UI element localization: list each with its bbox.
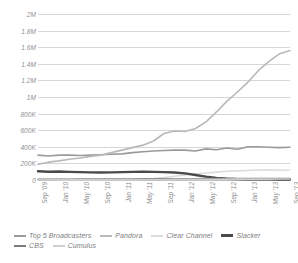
y-axis-tick-label: 1M [2, 94, 36, 101]
series-line [38, 179, 290, 180]
x-axis-tick-label: May '10 [83, 182, 90, 205]
y-axis-tick-label: 1.4M [2, 60, 36, 67]
y-axis-tick-label: 1.8M [2, 27, 36, 34]
x-axis-labels: Sep '09Jan '10May '10Sep '10Jan '11May '… [38, 182, 290, 222]
legend-label: CBS [29, 242, 44, 249]
y-axis-tick-label: 1.6M [2, 44, 36, 51]
legend-item[interactable]: Clear Channel [151, 232, 212, 239]
legend-label: Pandora [115, 232, 142, 239]
y-axis-tick-label: 400K [2, 143, 36, 150]
legend-item[interactable]: Cumulus [53, 242, 96, 249]
x-axis-tick-label: Sep '11 [167, 182, 174, 203]
plot-area [38, 14, 290, 180]
y-axis-tick-label: 600K [2, 127, 36, 134]
series-lines [38, 14, 290, 180]
x-axis-tick-label: Jan '12 [188, 182, 195, 203]
legend-label: Slacker [236, 232, 260, 239]
legend-swatch [14, 235, 26, 237]
legend-label: Clear Channel [166, 232, 212, 239]
x-axis-tick-label: Jan '13 [251, 182, 258, 203]
x-axis-tick-label: May '12 [209, 182, 216, 205]
legend-item[interactable]: Slacker [221, 232, 260, 239]
x-axis-tick-label: May '13 [272, 182, 279, 205]
legend-swatch [221, 234, 233, 237]
y-axis-tick-label: 1.2M [2, 77, 36, 84]
x-axis-tick-label: Sep '13 [293, 182, 298, 204]
legend-swatch [53, 245, 65, 247]
y-axis-tick-label: 2M [2, 11, 36, 18]
legend-item[interactable]: CBS [14, 242, 44, 249]
y-axis-tick-label: 0 [2, 177, 36, 184]
x-axis-tick-label: Sep '10 [104, 182, 111, 204]
y-axis-tick-label: 800K [2, 110, 36, 117]
x-axis-tick-label: Jan '11 [125, 182, 132, 202]
legend-item[interactable]: Pandora [100, 232, 142, 239]
x-axis-tick-label: May '11 [146, 182, 153, 204]
legend-label: Cumulus [68, 242, 96, 249]
legend-item[interactable]: Top 5 Broadcasters [14, 232, 91, 239]
y-axis-labels: 2M1.8M1.6M1.4M1.2M1M800K600K400K200K0 [0, 14, 36, 180]
x-axis-tick-label: Sep '09 [41, 182, 48, 204]
chart-legend: Top 5 BroadcastersPandoraClear ChannelSl… [14, 232, 292, 252]
legend-row-1: Top 5 BroadcastersPandoraClear ChannelSl… [14, 232, 292, 239]
x-axis-tick-label: Sep '12 [230, 182, 237, 204]
legend-swatch [100, 235, 112, 237]
x-axis-tick-label: Jan '10 [62, 182, 69, 203]
y-axis-tick-label: 200K [2, 160, 36, 167]
legend-row-2: CBSCumulus [14, 242, 292, 249]
legend-swatch [14, 245, 26, 247]
series-line [38, 147, 290, 156]
legend-swatch [151, 235, 163, 237]
legend-label: Top 5 Broadcasters [29, 232, 91, 239]
chart-container: 2M1.8M1.6M1.4M1.2M1M800K600K400K200K0 Se… [0, 0, 298, 263]
